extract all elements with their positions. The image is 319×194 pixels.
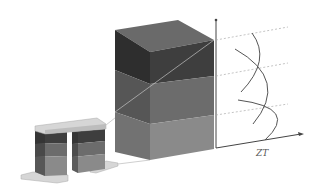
- guide-line-2: [216, 63, 288, 76]
- x-axis-label: ZT: [255, 148, 269, 158]
- y-axis-tip: [215, 19, 218, 22]
- guide-line-3: [216, 104, 288, 115]
- x-axis-arrow: [298, 132, 304, 136]
- zt-plot: ZT: [215, 19, 304, 158]
- connector-line-bottom: [118, 160, 150, 164]
- small-module: [21, 118, 118, 183]
- thermoelectric-leg-diagram: ZT: [0, 0, 319, 194]
- right-leg-side: [72, 131, 78, 173]
- zt-curve-2: [235, 49, 268, 124]
- left-leg-side: [35, 131, 45, 176]
- zt-curve-1: [241, 33, 260, 92]
- zt-curve-3: [238, 100, 278, 140]
- large-leg: [115, 20, 214, 160]
- x-axis: [216, 134, 301, 148]
